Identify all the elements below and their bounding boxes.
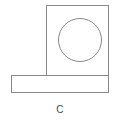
horizontal-base-plate xyxy=(12,76,109,93)
technical-drawing-figure: C xyxy=(0,0,120,130)
figure-caption-label: C xyxy=(0,104,120,116)
circular-through-hole xyxy=(59,19,102,62)
